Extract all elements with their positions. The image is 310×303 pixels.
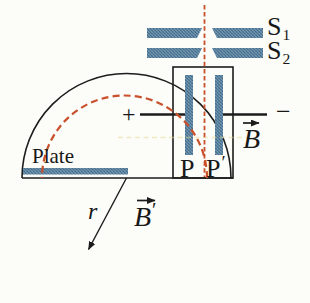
slit-s2-right-bar xyxy=(212,48,263,58)
b-prime-letter: B xyxy=(134,201,151,232)
photographic-plate-label: Plate xyxy=(32,146,74,167)
b-prime-mark: ′ xyxy=(152,199,156,221)
s2-subscript: 2 xyxy=(282,50,290,67)
minus-sign: − xyxy=(276,99,291,125)
b-field-label: B xyxy=(243,125,260,153)
slit-s2-left-bar xyxy=(147,48,202,58)
mass-spectrometer-diagram: S1 S2 + − B P P′ Plate r B′ xyxy=(0,0,310,303)
radius-label: r xyxy=(88,199,97,223)
p-prime-mark: ′ xyxy=(221,152,225,173)
b-letter: B xyxy=(243,123,260,154)
slit-s2-label: S2 xyxy=(267,38,290,64)
capacitor-plate-p xyxy=(185,75,193,155)
plate-p-prime-label: P′ xyxy=(206,156,226,182)
plus-sign: + xyxy=(122,102,136,126)
s2-letter: S xyxy=(267,36,281,65)
photographic-plate-bar xyxy=(23,168,128,175)
p-prime-letter: P xyxy=(206,154,220,183)
b-prime-field-label: B′ xyxy=(134,203,157,231)
capacitor-plate-p-prime xyxy=(215,75,223,155)
plate-p-label: P xyxy=(180,156,194,182)
slit-s1-left-bar xyxy=(147,28,202,38)
slit-s1-right-bar xyxy=(212,28,263,38)
